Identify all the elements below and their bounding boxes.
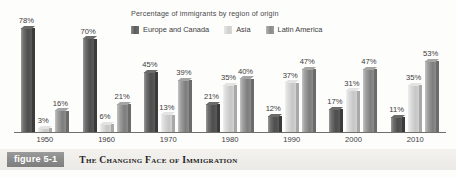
x-axis-tick-1950: 1950 <box>14 135 76 147</box>
bar-side <box>402 117 405 132</box>
bar-side <box>374 69 377 132</box>
bar-side <box>111 124 114 132</box>
bar-slot-2010-asia: 35% <box>408 18 422 132</box>
bar-2000-europe-canada[interactable]: 17% <box>329 109 340 132</box>
figure-caption-bar: figure 5-1 The Changing Face of Immigrat… <box>0 149 456 170</box>
figure-caption-text: The Changing Face of Immigration <box>79 154 237 165</box>
bar-1980-europe-canada[interactable]: 21% <box>206 104 217 132</box>
bar-1960-asia[interactable]: 6% <box>100 124 111 132</box>
bar-slot-1960-europe-canada: 70% <box>83 18 97 132</box>
bar-slot-1980-europe-canada: 21% <box>206 18 220 132</box>
bar-value-label: 40% <box>238 67 253 76</box>
bar-slot-1970-europe-canada: 45% <box>144 18 158 132</box>
bar-top <box>21 26 35 29</box>
bar-1990-europe-canada[interactable]: 12% <box>268 116 279 132</box>
bar-side <box>217 104 220 132</box>
bar-groups: 78%3%16%70%6%21%45%13%39%21%35%40%12%37%… <box>14 18 446 132</box>
bar-side <box>234 85 237 132</box>
bar-slot-1970-asia: 13% <box>161 18 175 132</box>
bar-group-2010: 11%35%53% <box>384 18 446 132</box>
bar-1970-latin-america[interactable]: 39% <box>178 80 189 132</box>
bar-1950-latin-america[interactable]: 16% <box>55 111 66 132</box>
bar-group-1950: 78%3%16% <box>14 18 76 132</box>
bar-1990-asia[interactable]: 37% <box>285 83 296 132</box>
bar-value-label: 70% <box>80 27 95 36</box>
bar-value-label: 47% <box>300 57 315 66</box>
bar-slot-1950-latin-america: 16% <box>55 18 69 132</box>
bar-group-1970: 45%13%39% <box>137 18 199 132</box>
bar-group-2000: 17%31%47% <box>323 18 385 132</box>
bar-side <box>32 28 35 132</box>
bar-top <box>268 114 282 117</box>
bar-value-label: 31% <box>344 79 359 88</box>
bar-side <box>279 116 282 132</box>
bar-side <box>155 72 158 132</box>
x-axis-tick-2010: 2010 <box>384 135 446 147</box>
bar-side <box>340 109 343 132</box>
x-axis-tick-1960: 1960 <box>76 135 138 147</box>
bar-side <box>66 111 69 132</box>
bar-face <box>363 69 374 132</box>
bar-value-label: 3% <box>38 116 49 125</box>
bar-1970-asia[interactable]: 13% <box>161 115 172 132</box>
x-axis-labels: 1950196019701980199020002010 <box>14 135 446 147</box>
bar-1990-latin-america[interactable]: 47% <box>302 69 313 132</box>
bar-value-label: 39% <box>176 68 191 77</box>
bar-face <box>178 80 189 132</box>
bar-2000-latin-america[interactable]: 47% <box>363 69 374 132</box>
bar-1970-europe-canada[interactable]: 45% <box>144 72 155 132</box>
bar-value-label: 53% <box>423 49 438 58</box>
bar-value-label: 35% <box>406 73 421 82</box>
bar-value-label: 17% <box>327 97 342 106</box>
bar-face <box>144 72 155 132</box>
bar-group-1960: 70%6%21% <box>76 18 138 132</box>
bar-2000-asia[interactable]: 31% <box>346 91 357 132</box>
bar-value-label: 6% <box>100 112 111 121</box>
bar-face <box>240 79 251 132</box>
bar-face <box>302 69 313 132</box>
bar-face <box>100 124 111 132</box>
bar-top <box>38 126 52 129</box>
bar-value-label: 35% <box>221 73 236 82</box>
bar-slot-2010-europe-canada: 11% <box>391 18 405 132</box>
x-axis-tick-2000: 2000 <box>323 135 385 147</box>
bar-slot-2000-asia: 31% <box>346 18 360 132</box>
bar-slot-1950-europe-canada: 78% <box>21 18 35 132</box>
chart-title: Percentage of immigrants by region of or… <box>131 9 381 18</box>
bar-face <box>161 115 172 132</box>
bar-slot-2010-latin-america: 53% <box>425 18 439 132</box>
bar-side <box>436 61 439 132</box>
bar-2010-latin-america[interactable]: 53% <box>425 61 436 132</box>
bar-side <box>94 39 97 132</box>
bar-1960-latin-america[interactable]: 21% <box>117 104 128 132</box>
bar-value-label: 16% <box>53 99 68 108</box>
bar-side <box>172 115 175 132</box>
bar-face <box>223 85 234 132</box>
bar-2010-asia[interactable]: 35% <box>408 85 419 132</box>
bar-value-label: 11% <box>389 105 404 114</box>
bar-1980-latin-america[interactable]: 40% <box>240 79 251 132</box>
bar-slot-1970-latin-america: 39% <box>178 18 192 132</box>
bar-slot-1990-asia: 37% <box>285 18 299 132</box>
bar-face <box>206 104 217 132</box>
bar-group-1990: 12%37%47% <box>261 18 323 132</box>
bar-side <box>419 85 422 132</box>
bar-face <box>268 116 279 132</box>
bar-face <box>408 85 419 132</box>
bar-value-label: 21% <box>204 92 219 101</box>
x-axis-line <box>14 132 446 133</box>
figure-container: Percentage of immigrants by region of or… <box>0 0 456 178</box>
bar-face <box>55 111 66 132</box>
bar-face <box>346 91 357 132</box>
bar-1950-europe-canada[interactable]: 78% <box>21 28 32 132</box>
bar-face <box>21 28 32 132</box>
bar-value-label: 37% <box>283 71 298 80</box>
bar-face <box>329 109 340 132</box>
bar-face <box>83 39 94 132</box>
bar-side <box>189 80 192 132</box>
bar-group-1980: 21%35%40% <box>199 18 261 132</box>
bar-slot-1960-latin-america: 21% <box>117 18 131 132</box>
bar-2010-europe-canada[interactable]: 11% <box>391 117 402 132</box>
bar-1960-europe-canada[interactable]: 70% <box>83 39 94 132</box>
bar-1980-asia[interactable]: 35% <box>223 85 234 132</box>
